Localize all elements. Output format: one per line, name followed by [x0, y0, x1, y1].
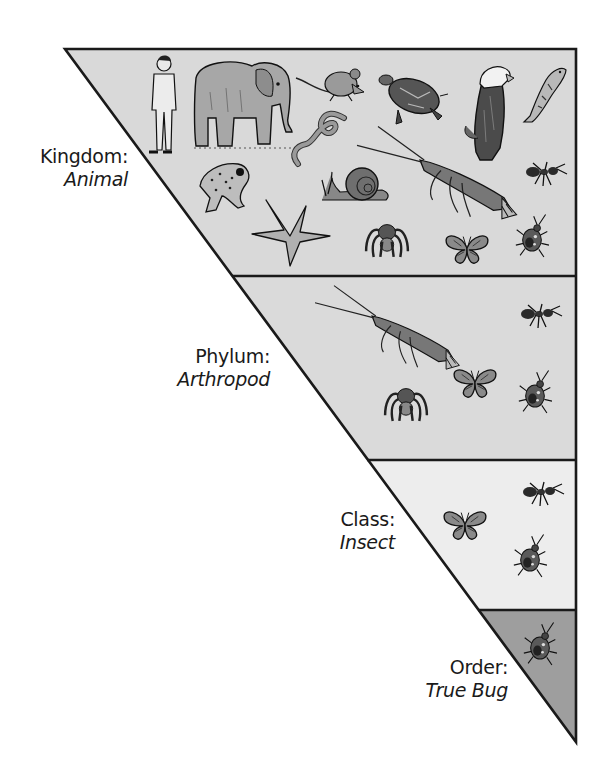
band-phylum: [232, 276, 576, 460]
rank-name: Kingdom:: [40, 145, 128, 168]
taxon-name: Arthropod: [177, 368, 270, 391]
label-class: Class: Insect: [340, 508, 395, 554]
label-order: Order: True Bug: [426, 656, 508, 702]
label-kingdom: Kingdom: Animal: [40, 145, 128, 191]
taxon-name: Animal: [40, 168, 128, 191]
rank-name: Phylum:: [177, 345, 270, 368]
classification-triangle: [0, 0, 607, 776]
taxon-name: Insect: [340, 531, 395, 554]
taxon-name: True Bug: [426, 679, 508, 702]
rank-name: Class:: [340, 508, 395, 531]
rank-name: Order:: [426, 656, 508, 679]
label-phylum: Phylum: Arthropod: [177, 345, 270, 391]
